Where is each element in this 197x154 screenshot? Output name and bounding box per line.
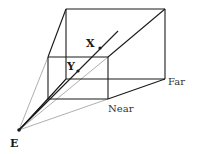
edge-bottom-right: [108, 79, 165, 99]
eye-point: [17, 128, 21, 132]
y-point: [76, 69, 79, 72]
eye-label: E: [10, 137, 18, 150]
ray-through-x-y: [19, 31, 118, 130]
far-label: Far: [168, 76, 185, 87]
near-label: Near: [108, 103, 134, 114]
y-label: Y: [66, 60, 75, 73]
guide-eye-to-near-top-left: [19, 57, 48, 130]
x-label: X: [86, 37, 95, 50]
rays: [19, 31, 118, 130]
frustum-diagram: E X Y Far Near: [0, 0, 197, 154]
x-point: [98, 46, 101, 49]
ray-to-far-bottom-left: [19, 79, 66, 130]
guide-lines: [19, 57, 108, 130]
edge-top-left: [48, 9, 66, 57]
guide-eye-to-near-top-right: [19, 57, 108, 130]
guide-eye-to-near-bottom-right: [19, 99, 108, 130]
